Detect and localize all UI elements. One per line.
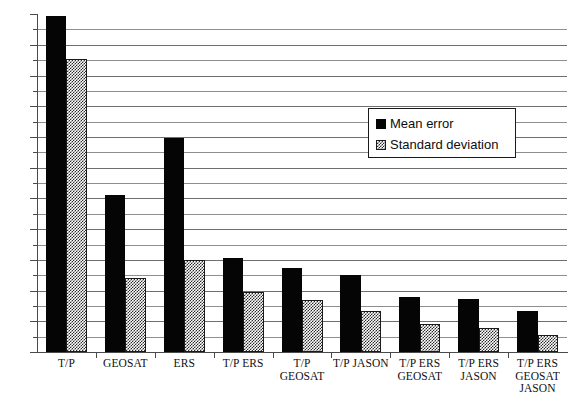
y-axis-tick — [33, 29, 38, 30]
y-axis-tick — [33, 275, 38, 276]
y-axis-tick — [33, 60, 38, 61]
bar-standard-deviation — [66, 59, 87, 352]
legend-label-standard-deviation: Standard deviation — [390, 138, 498, 151]
x-axis-category-label: ERS — [155, 357, 214, 370]
bar-mean-error — [105, 195, 126, 352]
bar-standard-deviation — [538, 335, 559, 352]
bar-mean-error — [46, 16, 67, 353]
y-axis-tick — [33, 306, 38, 307]
legend-item-standard-deviation: Standard deviation — [376, 134, 509, 155]
y-axis-tick — [30, 168, 38, 169]
bar-standard-deviation — [243, 292, 264, 352]
x-axis-category-label: GEOSAT — [96, 357, 155, 370]
x-axis-category-label: T/P — [37, 357, 96, 370]
y-axis-tick — [33, 122, 38, 123]
chart-legend: Mean error Standard deviation — [368, 108, 516, 158]
bars-layer — [37, 14, 567, 352]
y-axis-tick — [33, 337, 38, 338]
y-axis-tick — [33, 183, 38, 184]
y-axis-tick — [30, 260, 38, 261]
bar-mean-error — [223, 258, 244, 352]
x-axis-category-label: T/P GEOSAT — [273, 357, 332, 382]
legend-swatch-standard-deviation — [376, 140, 386, 150]
y-axis-tick — [30, 14, 38, 15]
y-axis-tick — [33, 214, 38, 215]
y-axis-tick — [30, 229, 38, 230]
y-axis-tick — [30, 76, 38, 77]
y-axis-tick — [30, 321, 38, 322]
bar-mean-error — [164, 138, 185, 352]
x-axis-category-label: T/P ERS GEOSAT — [390, 357, 449, 382]
x-axis-line — [37, 352, 568, 353]
legend-label-mean-error: Mean error — [390, 117, 454, 130]
x-axis-category-label: T/P ERS JASON — [449, 357, 508, 382]
x-axis-category-label: T/P JASON — [331, 357, 390, 370]
bar-mean-error — [399, 297, 420, 352]
y-axis-tick — [30, 198, 38, 199]
y-axis-tick — [33, 245, 38, 246]
bar-standard-deviation — [302, 300, 323, 352]
x-axis-category-label: T/P ERS GEOSAT JASON — [508, 357, 567, 395]
legend-item-mean-error: Mean error — [376, 113, 509, 134]
bar-mean-error — [282, 268, 303, 353]
bar-standard-deviation — [184, 260, 205, 352]
y-axis-tick — [30, 137, 38, 138]
bar-chart: 0246810121416182022 T/PGEOSATERST/P ERST… — [0, 0, 576, 405]
y-axis-tick — [30, 106, 38, 107]
y-axis-tick — [30, 352, 38, 353]
bar-standard-deviation — [479, 328, 500, 352]
bar-mean-error — [458, 299, 479, 352]
x-axis-category-label: T/P ERS — [214, 357, 273, 370]
legend-swatch-mean-error — [376, 119, 386, 129]
y-axis-tick — [30, 291, 38, 292]
y-axis-tick — [30, 45, 38, 46]
bar-mean-error — [517, 311, 538, 352]
y-axis-tick — [33, 91, 38, 92]
bar-standard-deviation — [361, 311, 382, 352]
bar-standard-deviation — [125, 278, 146, 352]
y-axis-tick — [33, 152, 38, 153]
x-axis-category-labels: T/PGEOSATERST/P ERST/P GEOSATT/P JASONT/… — [37, 357, 568, 403]
bar-mean-error — [340, 275, 361, 352]
bar-standard-deviation — [420, 324, 441, 352]
